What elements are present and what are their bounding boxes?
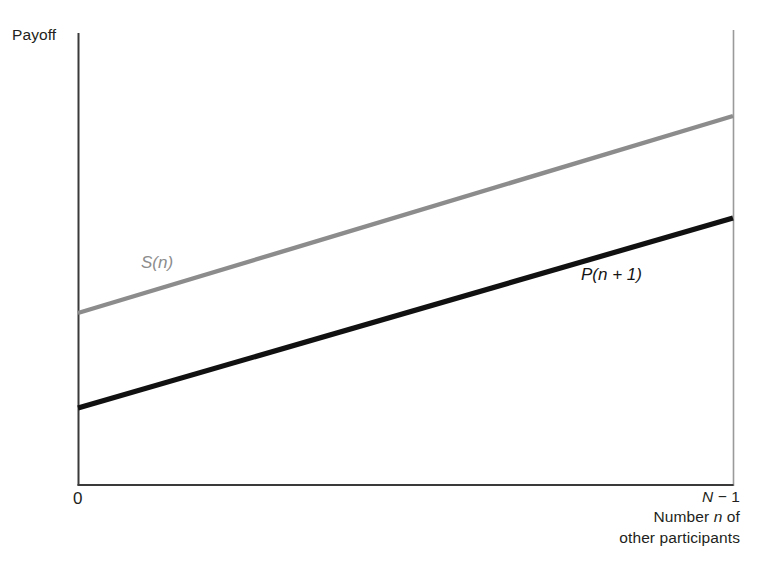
figure-container: Payoff 0 N − 1 Number n of other partici… <box>0 0 758 573</box>
x-axis-caption: N − 1 Number n of other participants <box>619 487 740 548</box>
series-annotation-p: P(n + 1) <box>581 265 642 285</box>
x-axis-caption-post: of <box>722 508 740 525</box>
x-axis-end-tick-label: N − 1 <box>619 487 740 507</box>
x-axis-caption-line-2: other participants <box>619 528 740 548</box>
y-axis-title: Payoff <box>12 26 56 44</box>
x-axis-end-rest: − 1 <box>713 488 740 505</box>
series-line-p <box>78 218 733 408</box>
series-annotation-s: S(n) <box>141 253 173 273</box>
x-axis-origin-tick-label: 0 <box>73 489 83 509</box>
x-axis-caption-line-1: Number n of <box>619 507 740 527</box>
x-axis-end-symbol: N <box>702 488 713 505</box>
x-axis-caption-pre: Number <box>654 508 714 525</box>
